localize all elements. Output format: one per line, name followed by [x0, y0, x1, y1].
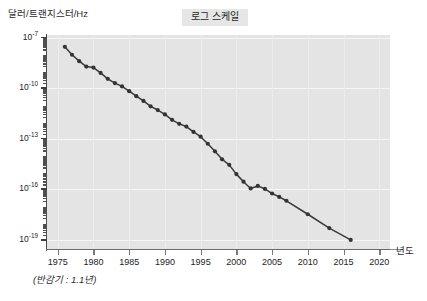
y-tick-minor — [43, 92, 47, 93]
y-tick-minor — [43, 228, 47, 229]
gridline-vertical — [344, 35, 345, 250]
x-axis-title: 년도 — [396, 243, 414, 257]
y-tick-minor — [43, 78, 47, 79]
y-tick-minor — [43, 164, 47, 165]
gridline-vertical — [308, 35, 309, 250]
y-tick-minor — [43, 156, 47, 157]
y-tick-minor — [43, 224, 47, 225]
y-tick-minor — [43, 112, 47, 113]
y-tick-minor — [43, 211, 47, 212]
y-tick-minor — [43, 100, 47, 101]
x-tick-label: 1980 — [83, 257, 103, 267]
y-tick-minor — [43, 59, 47, 60]
y-tick-label: 10-13 — [0, 133, 38, 143]
y-tick-minor — [43, 194, 47, 195]
gridline-horizontal — [47, 240, 390, 241]
x-tick — [308, 250, 309, 255]
x-tick — [379, 250, 380, 255]
y-tick-minor — [43, 235, 47, 236]
y-tick-minor — [43, 150, 47, 151]
y-tick-minor — [43, 176, 47, 177]
y-tick-minor — [43, 95, 47, 96]
y-tick-minor — [43, 131, 47, 132]
y-tick-minor — [43, 178, 47, 179]
y-tick-minor — [43, 213, 47, 214]
y-tick-minor — [43, 201, 47, 202]
x-tick-label: 2015 — [334, 257, 354, 267]
y-tick-minor — [43, 193, 47, 194]
chart-figure: 달러/트랜지스터/Hz 로그 스케일 10-710-1010-1310-1610… — [0, 0, 427, 301]
x-tick-label: 2010 — [298, 257, 318, 267]
y-tick-minor — [43, 58, 47, 59]
gridline-horizontal — [47, 38, 390, 39]
gridline-vertical — [93, 35, 94, 250]
chart-title: 로그 스케일 — [182, 9, 248, 26]
gridline-vertical — [58, 35, 59, 250]
plot-area — [47, 35, 390, 250]
x-tick-label: 1990 — [155, 257, 175, 267]
y-tick-minor — [43, 114, 47, 115]
y-tick-minor — [43, 49, 47, 50]
y-tick-minor — [43, 110, 47, 111]
y-tick-minor — [43, 76, 47, 77]
y-tick-minor — [43, 80, 47, 81]
x-tick — [165, 250, 166, 255]
y-tick-minor — [43, 75, 47, 76]
y-tick-minor — [43, 145, 47, 146]
y-tick-minor — [43, 167, 47, 168]
y-tick-minor — [43, 179, 47, 180]
y-tick-minor — [43, 134, 47, 135]
x-tick-label: 2005 — [262, 257, 282, 267]
x-axis-line — [46, 249, 391, 250]
y-tick-minor — [43, 148, 47, 149]
y-tick-minor — [43, 129, 47, 130]
y-tick-minor — [43, 97, 47, 98]
y-tick-minor — [43, 230, 47, 231]
y-tick-minor — [43, 227, 47, 228]
y-tick-minor — [43, 83, 47, 84]
x-tick-label: 1995 — [191, 257, 211, 267]
x-tick-label: 1975 — [48, 257, 68, 267]
y-tick-minor — [43, 198, 47, 199]
y-tick-minor — [43, 159, 47, 160]
y-tick-minor — [43, 89, 47, 90]
y-tick-minor — [43, 161, 47, 162]
y-tick-minor — [43, 43, 47, 44]
y-tick-minor — [43, 232, 47, 233]
y-tick-minor — [43, 63, 47, 64]
x-tick — [272, 250, 273, 255]
y-tick-minor — [43, 218, 47, 219]
y-tick-minor — [43, 38, 47, 39]
x-tick — [201, 250, 202, 255]
y-tick-minor — [43, 117, 47, 118]
y-tick-minor — [43, 123, 47, 124]
gridline-horizontal — [47, 139, 390, 140]
y-axis-title: 달러/트랜지스터/Hz — [8, 6, 88, 20]
y-tick-minor — [43, 41, 47, 42]
y-tick-minor — [43, 162, 47, 163]
y-tick-minor — [43, 61, 47, 62]
y-tick-minor — [43, 127, 47, 128]
y-tick-minor — [43, 207, 47, 208]
y-tick-minor — [43, 184, 47, 185]
y-tick-minor — [43, 109, 47, 110]
y-tick-minor — [43, 126, 47, 127]
gridline-vertical — [201, 35, 202, 250]
y-tick-minor — [43, 215, 47, 216]
y-tick-minor — [43, 210, 47, 211]
x-tick-label: 2020 — [369, 257, 389, 267]
y-tick-minor — [43, 190, 47, 191]
y-tick-label: 10-19 — [0, 234, 38, 244]
x-tick — [236, 250, 237, 255]
y-tick-minor — [43, 93, 47, 94]
x-tick-label: 2000 — [226, 257, 246, 267]
gridline-horizontal — [47, 189, 390, 190]
gridline-horizontal — [47, 88, 390, 89]
x-tick — [93, 250, 94, 255]
gridline-vertical — [165, 35, 166, 250]
chart-footnote: (반감기 : 1.1년) — [33, 272, 96, 286]
y-tick-label: 10-7 — [0, 32, 38, 42]
gridline-vertical — [236, 35, 237, 250]
gridline-vertical — [379, 35, 380, 250]
x-tick — [129, 250, 130, 255]
